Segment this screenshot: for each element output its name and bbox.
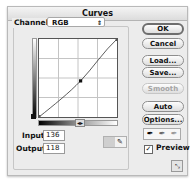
- pencil-tool-icon[interactable]: ✎: [117, 137, 123, 147]
- channel-value: RGB: [52, 19, 68, 27]
- select-arrows-icon: ⇕: [97, 18, 102, 28]
- options-button[interactable]: Options...: [142, 114, 184, 125]
- cancel-button[interactable]: Cancel: [142, 38, 184, 49]
- auto-button[interactable]: Auto: [142, 101, 184, 112]
- eyedropper-group: ✒ ✒ ✒: [143, 128, 181, 140]
- preview-label: Preview: [156, 143, 190, 152]
- curve-control-point: [79, 79, 82, 82]
- curve-graph[interactable]: [38, 38, 118, 118]
- curve-svg: [39, 39, 117, 117]
- gradient-toggle-icon[interactable]: ◂▸: [75, 119, 85, 127]
- save-button[interactable]: Save...: [142, 67, 184, 78]
- curve-tool-toggle[interactable]: ✎: [103, 136, 127, 148]
- smooth-button[interactable]: Smooth: [142, 83, 184, 94]
- ok-button[interactable]: OK: [142, 23, 184, 35]
- input-field[interactable]: 136: [43, 130, 65, 141]
- black-eyedropper-icon[interactable]: ✒: [147, 129, 154, 139]
- checkmark-icon[interactable]: ✓: [144, 145, 153, 154]
- output-gradient-knob: [31, 114, 36, 119]
- output-field[interactable]: 118: [43, 143, 65, 154]
- gray-eyedropper-icon[interactable]: ✒: [159, 129, 166, 139]
- white-eyedropper-icon[interactable]: ✒: [171, 129, 178, 139]
- point-curve-tool-icon[interactable]: [104, 137, 115, 147]
- preview-checkbox[interactable]: ✓Preview: [144, 143, 190, 154]
- output-gradient-bar: [32, 38, 37, 118]
- channel-select[interactable]: RGB ⇕: [47, 17, 105, 27]
- load-button[interactable]: Load...: [142, 55, 184, 66]
- expand-dialog-icon[interactable]: ⤡: [171, 160, 183, 172]
